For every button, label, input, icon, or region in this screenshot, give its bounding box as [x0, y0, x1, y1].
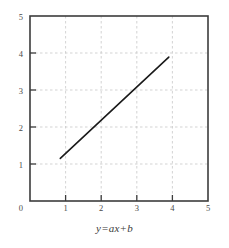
plot-area-background — [30, 16, 208, 201]
x-tick-label-4: 4 — [170, 203, 175, 213]
y-tick-label-5: 5 — [19, 12, 23, 22]
figure-container: 5 4 3 2 1 0 1 2 3 4 5 y=ax+b — [0, 0, 229, 248]
line-chart: 5 4 3 2 1 0 1 2 3 4 5 — [0, 0, 229, 248]
x-axis-tick-labels: 1 2 3 4 5 — [63, 203, 210, 213]
x-tick-label-2: 2 — [99, 203, 103, 213]
y-tick-label-3: 3 — [19, 86, 23, 96]
y-tick-label-4: 4 — [19, 49, 24, 59]
x-tick-label-3: 3 — [135, 203, 139, 213]
y-tick-label-1: 1 — [19, 160, 23, 170]
y-axis-tick-labels: 5 4 3 2 1 — [19, 12, 24, 170]
y-tick-label-2: 2 — [19, 123, 23, 133]
origin-tick-label-0: 0 — [19, 203, 23, 213]
figure-caption: y=ax+b — [0, 222, 229, 234]
x-tick-label-5: 5 — [206, 203, 210, 213]
x-tick-label-1: 1 — [63, 203, 67, 213]
